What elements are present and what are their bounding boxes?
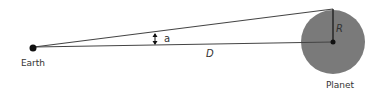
planet-label: Planet bbox=[326, 80, 355, 90]
distance-label: D bbox=[206, 48, 214, 59]
planet-center-dot bbox=[331, 40, 336, 45]
earth-dot bbox=[30, 45, 37, 52]
angle-label: a bbox=[164, 33, 170, 44]
earth-label: Earth bbox=[21, 58, 45, 68]
tangent-line bbox=[34, 9, 333, 47]
angle-arrow-icon bbox=[153, 33, 158, 45]
diagram-canvas: a D R Earth Planet bbox=[0, 0, 389, 93]
radius-label: R bbox=[336, 23, 343, 34]
distance-line bbox=[34, 42, 333, 47]
